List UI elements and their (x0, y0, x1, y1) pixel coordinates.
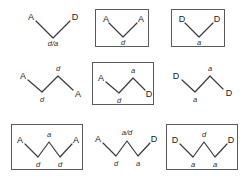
diagram-cell-r1c1: A D d/a (22, 8, 84, 48)
diagram-cell-r3c2: A D a/d d a (90, 124, 162, 170)
conformation-label-bottom-r1c1: d/a (48, 40, 58, 48)
conformation-label-top-r2c2: a (131, 67, 135, 75)
conformation-label-top-r3c2: a/d (122, 129, 132, 137)
diagram-cell-r2c1: A A d d (16, 61, 88, 106)
conformation-label-top-r2c1: d (56, 65, 60, 73)
conformation-label-bottom-right-r3c2: a (136, 160, 140, 168)
conformation-label-bottom-left-r3c2: d (114, 160, 118, 168)
terminal-label-left-r2c1: A (20, 72, 26, 81)
terminal-label-right-r2c2: D (146, 90, 153, 99)
conformation-diagram-grid: A D d/a A A d D D a A A d d A D (0, 0, 247, 181)
chain-path-r2c1 (16, 61, 88, 106)
conformation-label-bottom-r1c2: d (121, 39, 125, 47)
diagram-cell-r1c2: A A d (95, 9, 149, 47)
diagram-cell-r1c3: D D a (171, 9, 225, 47)
terminal-label-right-r3c2: D (151, 135, 158, 144)
conformation-label-bottom-r2c1: d (40, 96, 44, 104)
terminal-label-left-r1c2: A (103, 15, 109, 24)
terminal-label-left-r3c3: D (172, 136, 179, 145)
conformation-label-bottom-left-r3c3: a (191, 161, 195, 169)
diagram-cell-r3c3: D D d a a (166, 124, 238, 170)
terminal-label-right-r2c1: A (75, 90, 81, 99)
terminal-label-left-r2c2: A (98, 74, 104, 83)
conformation-label-bottom-r2c2: d (117, 97, 121, 105)
conformation-label-top-r3c3: d (202, 131, 206, 139)
conformation-label-bottom-r2c3: a (193, 96, 197, 104)
chain-path-r2c3 (168, 61, 238, 106)
terminal-label-left-r2c3: D (173, 72, 180, 81)
conformation-label-top-r2c3: a (208, 65, 212, 73)
terminal-label-right-r1c3: D (214, 15, 221, 24)
diagram-cell-r2c2: A D a d (92, 62, 154, 105)
chain-path-r2c2 (93, 63, 155, 106)
terminal-label-right-r2c3: D (226, 89, 233, 98)
terminal-label-left-r1c3: D (179, 15, 186, 24)
terminal-label-left-r3c2: A (95, 135, 101, 144)
diagram-cell-r3c1: A A a d d (11, 124, 83, 170)
conformation-label-bottom-right-r3c1: d (58, 161, 62, 169)
conformation-label-bottom-right-r3c3: a (213, 161, 217, 169)
conformation-label-bottom-left-r3c1: d (36, 161, 40, 169)
terminal-label-left-r1c1: A (28, 13, 34, 22)
terminal-label-left-r3c1: A (17, 136, 23, 145)
terminal-label-right-r1c2: A (138, 15, 144, 24)
terminal-label-right-r3c1: A (73, 136, 79, 145)
conformation-label-bottom-r1c3: a (197, 39, 201, 47)
diagram-cell-r2c3: D D a a (168, 61, 238, 106)
terminal-label-right-r1c1: D (72, 13, 79, 22)
terminal-label-right-r3c3: D (228, 136, 235, 145)
conformation-label-top-r3c1: a (47, 131, 51, 139)
